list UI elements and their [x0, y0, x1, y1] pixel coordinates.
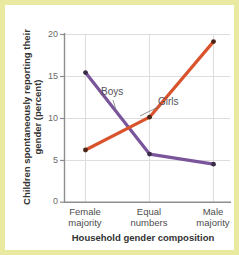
x-tick-label-line2: majority	[178, 217, 239, 228]
figure-frame: 20 15 10 5 0 Female majority Equal numbe…	[0, 0, 239, 255]
x-tick-label-female-majority: Female majority	[50, 206, 120, 228]
x-tick-label-line1: Male	[178, 206, 239, 217]
x-tick-label-male-majority: Male majority	[178, 206, 239, 228]
series-annotation-girls: Girls	[158, 96, 179, 107]
x-tick-label-line1: Equal	[114, 206, 184, 217]
x-axis-title: Household gender composition	[48, 232, 238, 243]
x-tick-label-equal-numbers: Equal numbers	[114, 206, 184, 228]
figure-inner-panel: 20 15 10 5 0 Female majority Equal numbe…	[5, 5, 234, 250]
y-axis-title: Children spontaneously reporting their g…	[21, 27, 43, 207]
series-annotation-boys: Boys	[101, 86, 123, 97]
x-tick-label-line1: Female	[50, 206, 120, 217]
x-tick-label-line2: numbers	[114, 217, 184, 228]
x-tick-label-line2: majority	[50, 217, 120, 228]
